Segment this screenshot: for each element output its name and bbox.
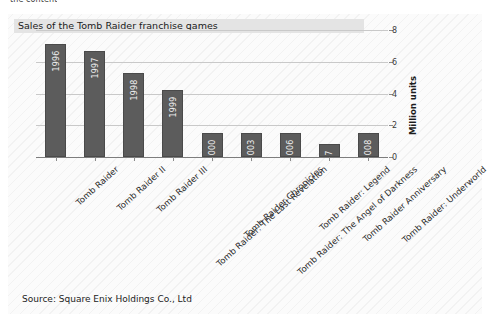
clipped-header-text: the content bbox=[10, 0, 57, 3]
bar-year-label: 1996 bbox=[51, 51, 60, 72]
plot-area: 024681996Tomb Raider1997Tomb Raider II19… bbox=[36, 30, 388, 157]
bar-1999[interactable]: 1999 bbox=[162, 90, 183, 157]
x-tick-mark-1 bbox=[95, 157, 96, 161]
bar-1998[interactable]: 1998 bbox=[123, 73, 144, 157]
bar-2003[interactable]: 2003 bbox=[241, 133, 262, 157]
y-axis-title: Million units bbox=[408, 76, 418, 135]
y-tick-label-0: 0 bbox=[392, 153, 406, 162]
x-tick-mark-6 bbox=[290, 157, 291, 161]
bar-2006[interactable]: 2006 bbox=[280, 133, 301, 157]
gridline-8 bbox=[36, 30, 388, 31]
x-tick-mark-0 bbox=[56, 157, 57, 161]
x-tick-mark-7 bbox=[329, 157, 330, 161]
chart-figure: Sales of the Tomb Raider franchise games… bbox=[8, 14, 482, 314]
x-tick-mark-8 bbox=[368, 157, 369, 161]
x-tick-mark-2 bbox=[134, 157, 135, 161]
bar-1997[interactable]: 1997 bbox=[84, 51, 105, 157]
screenshot-root: the content Sales of the Tomb Raider fra… bbox=[0, 0, 490, 322]
source-note: Source: Square Enix Holdings Co., Ltd bbox=[22, 294, 192, 304]
x-tick-mark-4 bbox=[212, 157, 213, 161]
bar-year-label: 2003 bbox=[247, 140, 256, 157]
bar-1996[interactable]: 1996 bbox=[45, 44, 66, 157]
bar-year-label: 1998 bbox=[129, 79, 138, 100]
x-tick-mark-3 bbox=[173, 157, 174, 161]
bar-year-label: 1999 bbox=[168, 97, 177, 118]
x-category-label-4: Tomb Raider Chronicles bbox=[242, 164, 324, 240]
bar-2000[interactable]: 2000 bbox=[202, 133, 223, 157]
bar-2008[interactable]: 2008 bbox=[358, 133, 379, 157]
bar-year-label: 2006 bbox=[286, 140, 295, 157]
x-tick-mark-5 bbox=[251, 157, 252, 161]
bar-2007[interactable]: 2007 bbox=[319, 144, 340, 157]
bar-year-label: 2000 bbox=[208, 140, 217, 157]
x-category-label-0: Tomb Raider bbox=[73, 164, 120, 207]
bar-year-label: 1997 bbox=[90, 57, 99, 78]
y-tick-label-4: 4 bbox=[392, 89, 406, 98]
y-tick-label-8: 8 bbox=[392, 26, 406, 35]
y-tick-label-6: 6 bbox=[392, 57, 406, 66]
bar-year-label: 2008 bbox=[364, 140, 373, 157]
y-tick-label-2: 2 bbox=[392, 121, 406, 130]
